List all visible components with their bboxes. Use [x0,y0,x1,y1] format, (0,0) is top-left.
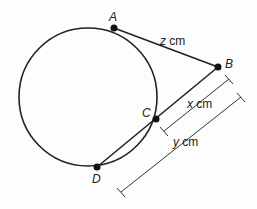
label-B: B [225,57,233,71]
label-A: A [108,10,117,24]
label-y-cm: y cm [172,135,198,149]
label-x-cm: x cm [186,97,212,111]
label-D: D [92,172,101,186]
point-B [215,64,222,71]
label-z-cm: z cm [159,34,185,48]
point-C [153,116,160,123]
tangent-secant-diagram: A B C D z cm x cm y cm [0,0,257,209]
circle [19,28,157,166]
diagram-svg: A B C D z cm x cm y cm [0,0,257,209]
label-C: C [142,106,151,120]
point-D [94,164,101,171]
point-A [111,25,118,32]
